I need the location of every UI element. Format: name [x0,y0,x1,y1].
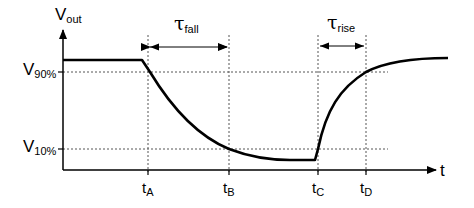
ticks [58,72,366,175]
v10-label: V10% [23,138,56,157]
y-axis-label: Vout [55,6,82,25]
waveform-diagram [0,0,474,208]
ta-label: tA [142,180,154,198]
x-axis-label: t [440,162,445,179]
guide-lines [63,35,388,172]
tb-label: tB [223,180,235,198]
tc-label: tC [312,180,324,198]
tau-fall-label: τfall [174,14,199,35]
vout-waveform [63,58,448,160]
v90-label: V90% [23,61,56,80]
tau-rise-label: τrise [327,13,355,34]
td-label: tD [360,180,372,198]
